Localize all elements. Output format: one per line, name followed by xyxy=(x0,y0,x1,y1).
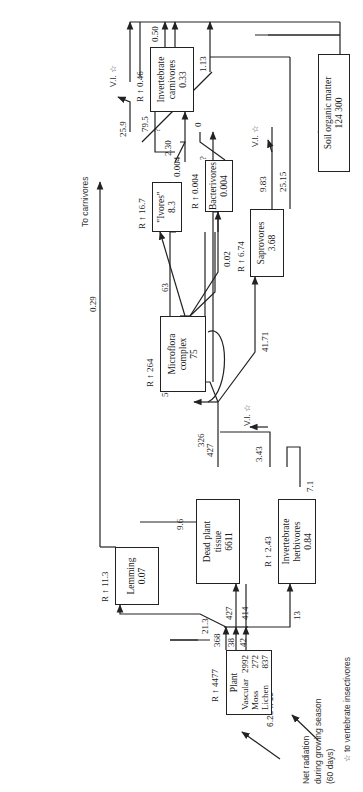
flow-21-3: 21.3 xyxy=(200,618,210,634)
herbivores-respiration: R ↑ 2.43 xyxy=(263,536,273,567)
flow-41-71: 41.71 xyxy=(260,332,270,352)
energy-flow-diagram: Net radiation during growing season (60 … xyxy=(0,0,363,792)
vi-ivores: V.I. ☆ xyxy=(108,65,118,87)
saprovores-respiration: R ↑ 6.74 xyxy=(236,241,246,272)
input-label: Net radiation during growing season (60 … xyxy=(300,698,336,784)
flow-79-5: 79.5 xyxy=(140,116,150,132)
node-bacterivores: Bacterivores 0.004 xyxy=(205,160,233,212)
flow-0-004: 0.004 xyxy=(172,157,182,177)
node-saprovores: Saprovores 3.68 xyxy=(250,209,284,277)
ivores-respiration: R ↑ 16.7 xyxy=(137,198,147,229)
node-ivores: "Ivores" 8.3 xyxy=(152,182,182,232)
node-inv-herbivores: Invertebrate herbivores 0.84 xyxy=(278,499,316,584)
flow-7-1: 7.1 xyxy=(305,481,315,492)
flow-368: 368 xyxy=(212,634,222,648)
flow-427-out: 427 xyxy=(205,444,215,458)
to-carnivores-label: To carnivores xyxy=(80,176,90,227)
flow-2-30: 2.30 xyxy=(163,140,173,156)
flow-25-15: 25.15 xyxy=(278,172,288,192)
flow-3-43: 3.43 xyxy=(254,446,264,462)
flow-zero: 0 xyxy=(193,123,203,128)
flow-414: 414 xyxy=(240,607,250,621)
node-dead-plant: Dead plant tissue 6611 xyxy=(196,499,240,584)
lemming-respiration: R ↑ 11.3 xyxy=(100,572,110,602)
carnivores-respiration: R ↑ 0.46 xyxy=(135,71,145,102)
microflora-respiration: R ↑ 264 xyxy=(145,358,155,387)
vi-herbivores: V.I. ☆ xyxy=(242,404,252,426)
flow-0-29: 0.29 xyxy=(88,296,98,312)
flow-427-in: 427 xyxy=(224,607,234,621)
flow-9-83: 9.83 xyxy=(258,176,268,192)
bacterivores-respiration: R ↑ 0.004 xyxy=(190,174,200,209)
question-2: ? xyxy=(198,156,208,160)
flow-0-02: 0.02 xyxy=(222,251,232,267)
question-1: ? xyxy=(152,128,162,132)
flow-42: 42 xyxy=(238,638,248,647)
vi-saprovores: V.I. ☆ xyxy=(250,125,260,147)
flow-25-9: 25.9 xyxy=(118,121,128,137)
node-plant: Plant Vascular2992 Moss272 Lichen837 xyxy=(226,650,272,715)
node-inv-carnivores: Invertebrate carnivores 0.33 xyxy=(150,47,194,112)
footnote: ☆ to vertebrate insectivores xyxy=(342,657,352,762)
node-soil: Soil organic matter 124 300 xyxy=(318,54,350,172)
plant-respiration: R ↑ 4477 xyxy=(210,669,220,702)
flow-38: 38 xyxy=(226,638,236,647)
flow-63: 63 xyxy=(160,283,170,292)
flow-lines xyxy=(0,0,363,792)
flow-9-6: 9.6 xyxy=(175,519,185,530)
flow-1-13: 1.13 xyxy=(198,56,208,72)
flow-326: 326 xyxy=(196,434,206,448)
node-lemming: Lemming 0.07 xyxy=(115,547,159,605)
flow-0-50: 0.50 xyxy=(150,26,160,42)
node-microflora: Microflora complex 75 xyxy=(160,316,206,392)
flow-13: 13 xyxy=(292,611,302,620)
